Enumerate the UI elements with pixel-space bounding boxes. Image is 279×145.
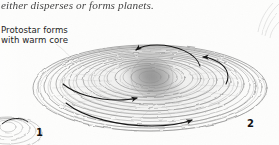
protostar-annotation: Protostar forms with warm core [1, 25, 68, 46]
caption-fragment: either disperses or forms planets. [1, 0, 201, 12]
figure-number-2: 2 [247, 118, 254, 129]
annotation-line-2: with warm core [1, 35, 68, 45]
protoplanetary-disk-illustration [0, 0, 279, 145]
scan-edge-fade [0, 46, 26, 116]
figure-number-1: 1 [36, 127, 43, 138]
annotation-line-1: Protostar forms [1, 25, 68, 35]
figure-panel: either disperses or forms planets. Proto… [0, 0, 279, 145]
